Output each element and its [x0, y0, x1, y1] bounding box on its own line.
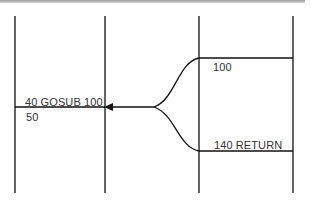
- return-label: 140 RETURN: [214, 139, 282, 151]
- next-line-label: 50: [26, 111, 38, 123]
- branch-to-subroutine-curve: [154, 58, 199, 107]
- branch-from-return-curve: [154, 107, 199, 151]
- subroutine-start-label: 100: [213, 61, 232, 73]
- gosub-label: 40 GOSUB 100: [25, 96, 103, 108]
